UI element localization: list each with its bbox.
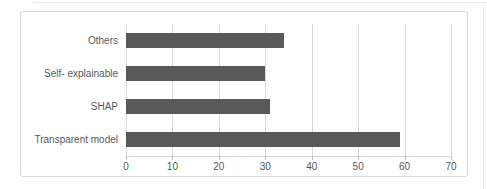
plot-area [126,24,451,156]
x-tick-mark-60 [405,156,406,160]
bar-shap [126,99,270,114]
x-tick-mark-70 [451,156,452,160]
x-axis-line [126,156,451,157]
gridline-70 [451,24,452,156]
page-border-top [33,2,487,3]
bar-transparent-model [126,132,400,147]
x-tick-mark-50 [358,156,359,160]
x-tick-label-0: 0 [123,161,129,172]
bar-others [126,33,284,48]
x-tick-label-40: 40 [306,161,317,172]
gridline-60 [405,24,406,156]
x-tick-label-10: 10 [167,161,178,172]
x-tick-label-30: 30 [260,161,271,172]
x-tick-label-60: 60 [399,161,410,172]
x-tick-mark-20 [219,156,220,160]
category-label-transparent-model: Transparent model [34,133,118,147]
chart-panel: 010203040506070OthersSelf- explainableSH… [20,11,468,177]
x-tick-label-50: 50 [353,161,364,172]
screenshot-root: 010203040506070OthersSelf- explainableSH… [0,0,487,189]
x-tick-mark-10 [172,156,173,160]
x-tick-label-20: 20 [213,161,224,172]
category-label-shap: SHAP [91,100,118,114]
bar-self-explainable [126,66,265,81]
x-tick-mark-40 [312,156,313,160]
x-tick-label-70: 70 [445,161,456,172]
page-border-right [483,2,484,189]
category-label-others: Others [88,34,118,48]
x-tick-mark-30 [265,156,266,160]
x-tick-mark-0 [126,156,127,160]
category-label-self-explainable: Self- explainable [44,67,118,81]
